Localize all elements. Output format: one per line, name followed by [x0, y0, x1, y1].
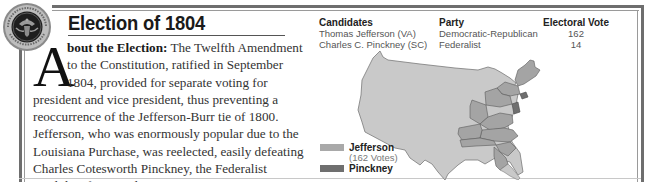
frame-left [19, 40, 22, 182]
frame-right [641, 5, 644, 182]
frame-right-inner [637, 10, 638, 182]
article-line: president and vice president, thus preve… [33, 91, 315, 108]
article-line: 1804, provided for separate voting for [33, 74, 315, 91]
article-line: bout the Election: The Twelfth Amendment [33, 39, 315, 56]
frame-left-inner [24, 40, 25, 182]
legend-swatch-jefferson [320, 144, 344, 151]
frame-top-inner [52, 10, 639, 11]
legend-label: Pinckney [349, 163, 393, 174]
article-line: candidate for president. [33, 177, 315, 182]
article-text: The Twelfth Amendment [167, 40, 302, 55]
frame-top [52, 5, 644, 8]
candidate-votes: 162 [541, 28, 611, 39]
legend-sublabel: (162 Votes) [349, 153, 398, 163]
page-title: Election of 1804 [68, 12, 205, 35]
article-line: Louisiana Purchase, was reelected, easil… [33, 143, 315, 160]
article-line: reoccurrence of the Jefferson-Burr tie o… [33, 108, 315, 125]
title-underline [68, 35, 285, 36]
legend-swatch-pinckney [320, 165, 344, 172]
article-line: Charles Cotesworth Pinckney, the Federal… [33, 160, 315, 177]
article-body: bout the Election: The Twelfth Amendment… [33, 39, 315, 182]
header-electoral-vote: Electoral Vote [541, 17, 611, 28]
article-line: to the Constitution, ratified in Septemb… [33, 56, 315, 73]
map-legend: Jefferson (162 Votes) Pinckney [320, 142, 398, 174]
article-lead: bout the Election: [67, 40, 167, 55]
article-line: Jefferson, who was enormously popular du… [33, 125, 315, 142]
legend-item-pinckney: Pinckney [320, 163, 398, 174]
